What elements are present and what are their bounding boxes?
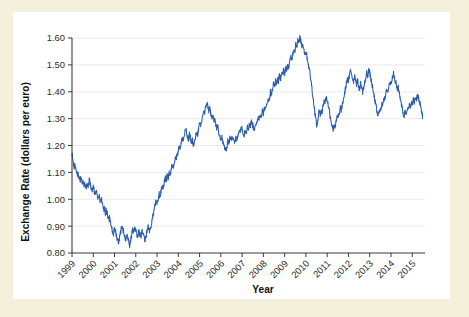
x-axis-ticks: 1999200020012002200320042005200620072008… [55, 253, 418, 280]
y-tick-label: 0.80 [47, 247, 65, 258]
x-tick-label: 1999 [55, 258, 78, 281]
x-tick-label: 2001 [97, 258, 120, 281]
x-tick-label: 2007 [225, 258, 248, 281]
y-axis-title: Exchange Rate (dollars per euro) [20, 82, 31, 242]
y-tick-label: 1.20 [47, 140, 65, 151]
x-tick-label: 2013 [353, 258, 376, 281]
gridlines [72, 38, 425, 226]
x-tick-label: 2012 [331, 258, 354, 281]
y-axis-ticks: 1.601.501.401.301.201.101.000.900.80 [47, 32, 72, 258]
y-tick-label: 1.00 [47, 194, 65, 205]
x-tick-label: 2008 [246, 258, 269, 281]
x-tick-label: 2015 [395, 258, 418, 281]
y-tick-label: 1.50 [47, 59, 65, 70]
series-group [72, 35, 422, 247]
x-tick-label: 2009 [268, 258, 291, 281]
series-line-us-dollars-per-euro [72, 35, 422, 247]
x-tick-label: 2002 [119, 258, 142, 281]
figure-root: 1.601.501.401.301.201.101.000.900.80 199… [0, 0, 469, 317]
x-tick-label: 2003 [140, 258, 163, 281]
x-tick-label: 2011 [311, 258, 333, 280]
y-tick-label: 1.30 [47, 113, 65, 124]
x-tick-label: 2000 [76, 258, 99, 281]
chart-card: 1.601.501.401.301.201.101.000.900.80 199… [13, 12, 450, 299]
x-tick-label: 2006 [204, 258, 227, 281]
y-tick-label: 1.60 [47, 32, 65, 43]
x-axis-title: Year [252, 284, 274, 295]
y-tick-label: 0.90 [47, 221, 65, 232]
x-tick-label: 2014 [374, 258, 397, 281]
y-tick-label: 1.10 [47, 167, 65, 178]
exchange-rate-line-chart: 1.601.501.401.301.201.101.000.900.80 199… [13, 12, 450, 299]
x-tick-label: 2004 [161, 258, 184, 281]
x-tick-label: 2005 [182, 258, 205, 281]
y-tick-label: 1.40 [47, 86, 65, 97]
x-tick-label: 2010 [289, 258, 312, 281]
